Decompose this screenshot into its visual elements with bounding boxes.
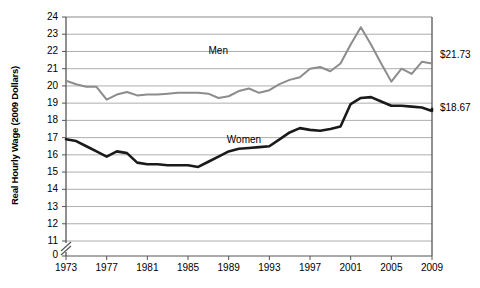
y-axis-title-container: Real Hourly Wage (2009 Dollars): [2, 0, 24, 288]
end-value-label-women: $18.67: [440, 102, 471, 113]
y-tick-label: 11: [28, 235, 58, 246]
x-tick-label: 1985: [166, 262, 210, 273]
x-tick-label: 1973: [44, 262, 88, 273]
data-series: [66, 27, 432, 167]
y-tick-label: 13: [28, 201, 58, 212]
y-tick-label: 23: [28, 28, 58, 39]
y-tick-label: 16: [28, 149, 58, 160]
y-tick-label: 12: [28, 218, 58, 229]
x-tick-label: 2009: [410, 262, 454, 273]
y-tick-label: 20: [28, 80, 58, 91]
x-tick-label: 1993: [247, 262, 291, 273]
y-tick-label: 19: [28, 97, 58, 108]
y-axis-title: Real Hourly Wage (2009 Dollars): [9, 56, 20, 216]
wage-line-chart: Real Hourly Wage (2009 Dollars) 11121314…: [0, 0, 480, 288]
x-tick-label: 2001: [329, 262, 373, 273]
x-tick-label: 1981: [125, 262, 169, 273]
y-tick-label: 14: [28, 183, 58, 194]
x-tick-label: 1977: [85, 262, 129, 273]
series-label-men: Men: [209, 45, 228, 56]
y-tick-label-zero: 0: [28, 249, 58, 260]
y-tick-label: 24: [28, 11, 58, 22]
x-tick-label: 2005: [369, 262, 413, 273]
series-label-women: Women: [227, 134, 261, 145]
x-tick-label: 1997: [288, 262, 332, 273]
y-tick-label: 17: [28, 132, 58, 143]
x-tick-label: 1989: [207, 262, 251, 273]
end-value-label-men: $21.73: [440, 49, 471, 60]
gridlines: [66, 17, 432, 241]
y-tick-label: 18: [28, 114, 58, 125]
y-tick-label: 15: [28, 166, 58, 177]
y-tick-label: 22: [28, 45, 58, 56]
y-tick-label: 21: [28, 63, 58, 74]
